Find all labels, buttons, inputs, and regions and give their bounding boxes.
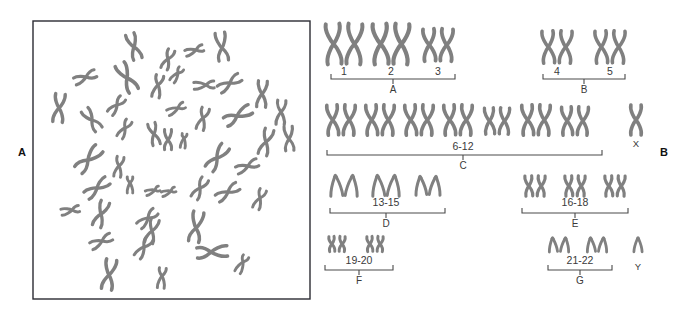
chromosome-number-label: 5 — [607, 65, 613, 77]
chromosome-group-label: A — [390, 84, 397, 95]
chromosome-number-label: 2 — [388, 65, 394, 77]
chromosome-number-label: 16-18 — [562, 196, 589, 208]
chromosome-group-label: G — [576, 275, 584, 286]
chromosome-group-label: D — [382, 218, 389, 229]
chromatid-3 — [377, 175, 379, 177]
chromosome-group-label: B — [581, 84, 588, 95]
chromosome-number-label: 4 — [554, 65, 560, 77]
figure-root: 123A45B6-12CX13-15D16-18E19-20F21-22GY A… — [0, 0, 684, 318]
chromosome-number-label: 13-15 — [373, 196, 400, 208]
chromosome-group-label: F — [356, 275, 362, 286]
chromosome-group-label: E — [572, 218, 579, 229]
chromatid-3 — [435, 176, 437, 178]
chromosome-Y-label: Y — [635, 261, 642, 272]
chromosome-number-label: 6-12 — [452, 140, 473, 152]
chromatid-3 — [419, 176, 421, 178]
chromatid-3 — [565, 238, 566, 239]
metaphase-spread-box — [33, 21, 310, 299]
chromatid-3 — [352, 175, 354, 177]
chromatid-3 — [637, 238, 638, 239]
chromosome-X-label: X — [633, 138, 640, 149]
chromatid-3 — [590, 238, 591, 239]
panel-label-b: B — [660, 146, 668, 158]
chromosome-group-label: C — [459, 160, 466, 171]
chromatid-3 — [603, 238, 604, 239]
chromosome-number-label: 19-20 — [346, 254, 373, 266]
chromosome-number-label: 3 — [435, 65, 441, 77]
chromosome-number-label: 1 — [341, 65, 347, 77]
chromosome-number-label: 21-22 — [567, 254, 594, 266]
chromatid-3 — [552, 238, 553, 239]
chromatid-3 — [335, 175, 337, 177]
panel-label-a: A — [18, 146, 26, 158]
karyotype-figure: 123A45B6-12CX13-15D16-18E19-20F21-22GY A… — [0, 0, 684, 318]
chromatid-3 — [394, 175, 396, 177]
